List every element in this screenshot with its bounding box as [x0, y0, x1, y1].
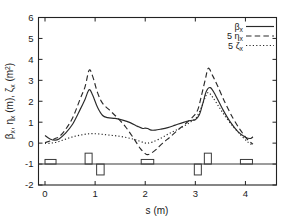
- x-tick-label-0: 0: [42, 188, 47, 199]
- y-axis-title: βx, ηx (m), ζx (m2): [4, 63, 17, 139]
- y-tick-label-5: 5: [28, 33, 33, 44]
- y-tick-label-2: 2: [28, 96, 33, 107]
- x-tick-label-1: 1: [92, 188, 97, 199]
- y-tick-label-4: 4: [28, 54, 33, 65]
- y-tick-label--1: -1: [25, 158, 33, 169]
- beam-optics-chart: 01234 -2-10123456 βx5 ηx5 ζx s (m) βx, η…: [0, 0, 295, 224]
- x-tick-label-4: 4: [243, 188, 248, 199]
- x-axis-title: s (m): [146, 205, 169, 216]
- y-axis-title-text: βx, ηx (m), ζx (m2): [4, 63, 17, 139]
- y-tick-label-0: 0: [28, 138, 33, 149]
- y-tick-label-3: 3: [28, 75, 33, 86]
- x-tick-label-3: 3: [193, 188, 198, 199]
- y-tick-label-6: 6: [28, 12, 33, 23]
- x-tick-label-2: 2: [143, 188, 148, 199]
- y-tick-label-1: 1: [28, 117, 33, 128]
- y-tick-label--2: -2: [25, 179, 33, 190]
